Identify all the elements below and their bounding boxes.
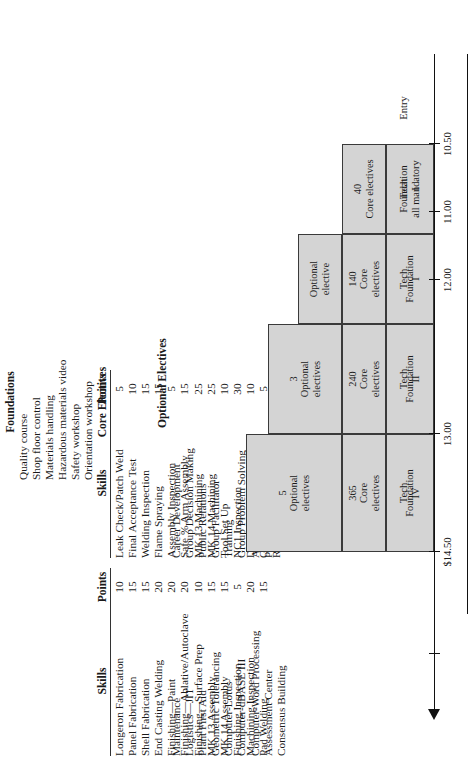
chart-block: Optional elective xyxy=(298,234,342,324)
optional-elective-item: Group Decision Making xyxy=(183,378,196,558)
optional-electives-title: Optional Electives xyxy=(156,248,168,428)
column-header-points: Points xyxy=(96,370,109,408)
skill-points: 15 xyxy=(139,568,152,606)
axis-tick xyxy=(429,279,440,280)
skill-name: Final Acceptance Test xyxy=(126,408,139,558)
axis-arrow-icon xyxy=(428,709,440,720)
axis-tick-label: 13.00 xyxy=(442,422,453,446)
skill-points: 5 xyxy=(113,370,126,408)
chart-baseline xyxy=(467,54,468,614)
optional-elective-item: Maintenance xyxy=(170,576,183,756)
skill-points: 15 xyxy=(126,568,139,606)
axis-tick-label: 12.00 xyxy=(442,268,453,292)
optional-elective-item: Group Facilitator xyxy=(209,378,222,558)
header-rule xyxy=(110,606,111,756)
optional-elective-item: Plant First Aid xyxy=(196,576,209,756)
optional-elective-item: Public Relations xyxy=(196,378,209,558)
skill-points: 10 xyxy=(126,370,139,408)
skill-name: Shell Fabrication xyxy=(139,606,152,756)
rotated-page: Foundations Quality course Shop floor co… xyxy=(0,0,472,774)
optional-elective-item: Geometric Tolerancing xyxy=(209,576,222,756)
chart-block: 40 Core electives xyxy=(342,144,386,234)
skill-name: Leak Check/Patch Weld xyxy=(113,408,126,558)
axis-tick-label: $14.50 xyxy=(442,537,453,566)
chart-block: 140 Core electives xyxy=(342,234,386,324)
stage-label: Entry xyxy=(398,72,410,144)
optional-elective-item: Computer-Lotus xyxy=(222,576,235,756)
skill-points: 15 xyxy=(139,370,152,408)
axis-tick xyxy=(429,433,440,434)
career-ladder-chart: 40 Core electives Foundation all mandato… xyxy=(246,0,472,774)
header-rule xyxy=(110,568,111,606)
skill-points: 10 xyxy=(113,568,126,606)
skill-name: Flame Spraying xyxy=(152,408,165,558)
column-header-points: Points xyxy=(96,568,109,606)
column-header-skills: Skills xyxy=(96,606,109,756)
foundations-block: Foundations Quality course Shop floor co… xyxy=(4,302,96,502)
stage-label: Tech I xyxy=(398,234,422,324)
foundations-item: Safety workshop xyxy=(69,302,82,502)
axis-tick-label: 10.50 xyxy=(442,132,453,156)
foundations-item: Quality course xyxy=(17,302,30,502)
optional-elective-item: Training xyxy=(222,378,235,558)
chart-block: 240 Core electives xyxy=(342,324,386,434)
optional-elective-item: Career Development xyxy=(170,378,183,558)
optional-elective-item: Logistics—JIT xyxy=(183,576,196,756)
skill-name: End Casting Welding xyxy=(152,606,165,756)
foundations-title: Foundations xyxy=(4,302,16,502)
skill-name: Longeron Fabrication xyxy=(113,606,126,756)
foundations-item: Materials handling xyxy=(43,302,56,502)
skill-name: Welding Inspection xyxy=(139,408,152,558)
header-rule xyxy=(110,408,111,558)
stage-label: Tech I xyxy=(398,144,422,234)
chart-block: 5 Optional electives xyxy=(246,434,342,552)
skill-points: 20 xyxy=(152,568,165,606)
axis-tick xyxy=(429,143,440,144)
column-header-skills: Skills xyxy=(96,408,109,558)
page-canvas: Foundations Quality course Shop floor co… xyxy=(0,0,472,774)
skill-name: Panel Fabrication xyxy=(126,606,139,756)
stage-label: Tech IV xyxy=(398,434,422,552)
money-axis xyxy=(434,54,435,714)
foundations-item: Orientation workshop xyxy=(82,302,95,502)
header-rule xyxy=(110,370,111,408)
axis-tick xyxy=(429,211,440,212)
foundations-item: Shop floor control xyxy=(30,302,43,502)
chart-block: 3 Optional electives xyxy=(268,324,342,434)
axis-tick-label: 11.00 xyxy=(442,200,453,223)
chart-block: 365 Core electives xyxy=(342,434,386,552)
foundations-item: Hazardous materials video xyxy=(56,302,69,502)
skills-lists: Foundations Quality course Shop floor co… xyxy=(0,0,246,774)
axis-tick xyxy=(429,653,440,654)
stage-label: Tech II xyxy=(398,324,422,434)
axis-tick xyxy=(429,551,440,552)
